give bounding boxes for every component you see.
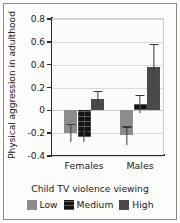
error-bar-stem — [97, 91, 98, 107]
gridline — [52, 156, 163, 157]
legend-swatch-medium — [64, 200, 74, 210]
legend-label-low: Low — [40, 199, 58, 210]
y-axis-tick-label: 0.4 — [31, 60, 45, 70]
y-axis-tick — [47, 18, 52, 20]
y-axis-tick-label: 0.6 — [31, 37, 45, 47]
x-axis-group-label-males: Males — [126, 160, 153, 171]
error-bar-cap-top — [93, 91, 102, 92]
legend: LowMediumHigh — [0, 199, 180, 210]
legend-swatch-low — [27, 200, 37, 210]
y-axis-tick — [47, 87, 52, 89]
legend-item-medium[interactable]: Medium — [64, 199, 114, 210]
legend-label-medium: Medium — [77, 199, 114, 210]
error-bar-stem — [139, 95, 140, 113]
gridline — [52, 19, 163, 20]
error-bar-cap-top — [80, 131, 89, 132]
error-bar-females-low — [64, 124, 77, 142]
error-bar-cap-top — [66, 124, 75, 125]
legend-item-low[interactable]: Low — [27, 199, 58, 210]
y-axis-tick — [47, 110, 52, 112]
figure-container: Physical aggression in adulthood 0.80.60… — [0, 0, 180, 223]
y-axis-tick — [47, 41, 52, 43]
y-axis-tick — [47, 64, 52, 66]
x-axis-title: Child TV violence viewing — [0, 183, 180, 194]
y-axis-tick — [47, 155, 52, 157]
y-axis-tick-label: 0.8 — [31, 14, 45, 24]
error-bar-stem — [153, 44, 154, 90]
error-bar-males-high — [147, 44, 160, 90]
y-axis-title: Physical aggression in adulthood — [6, 10, 20, 160]
error-bar-stem — [126, 126, 127, 144]
legend-item-high[interactable]: High — [119, 199, 153, 210]
y-axis-tick-label: -0.2 — [27, 128, 45, 138]
gridline — [52, 42, 163, 43]
legend-label-high: High — [132, 199, 153, 210]
error-bar-males-medium — [134, 95, 147, 113]
legend-swatch-high — [119, 200, 129, 210]
y-axis-tick-label: 0 — [39, 105, 45, 115]
error-bar-cap-top — [136, 95, 145, 96]
error-bar-males-low — [120, 126, 133, 144]
y-axis-tick — [47, 132, 52, 134]
error-bar-cap-top — [122, 126, 131, 127]
y-axis-tick-label: -0.4 — [27, 151, 45, 161]
error-bar-stem — [70, 124, 71, 142]
error-bar-stem — [83, 131, 84, 142]
error-bar-females-medium — [78, 131, 91, 142]
plot-area: 0.80.60.40.20-0.2-0.4 — [52, 18, 164, 155]
error-bar-females-high — [91, 91, 104, 107]
error-bar-cap-top — [149, 44, 158, 45]
x-axis-group-label-females: Females — [65, 160, 104, 171]
y-axis-tick-label: 0.2 — [31, 83, 45, 93]
